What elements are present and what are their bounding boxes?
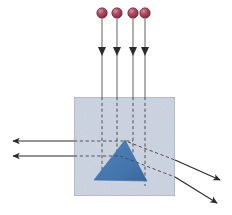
ray-diagram-root	[0, 0, 232, 215]
incident-arrowhead-2	[113, 47, 121, 56]
source-3	[128, 8, 138, 18]
exit-ray-right-1	[175, 160, 220, 180]
source-4	[140, 8, 150, 18]
exit-rays-left-group	[13, 141, 74, 156]
source-1	[97, 8, 107, 18]
incident-rays-group	[102, 19, 145, 97]
incident-arrowhead-1	[98, 47, 106, 56]
exit-rays-right-group	[175, 160, 220, 203]
incident-arrowheads-group	[98, 47, 149, 56]
scene-svg	[0, 0, 232, 215]
incident-arrowhead-4	[141, 47, 149, 56]
incident-arrowhead-3	[129, 47, 137, 56]
exit-ray-right-2	[175, 177, 217, 203]
source-2	[112, 8, 122, 18]
light-sources-group	[97, 8, 150, 18]
